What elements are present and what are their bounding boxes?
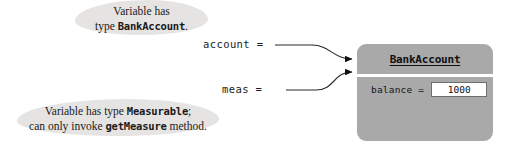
callout-text-suffix: . (185, 20, 188, 32)
arrow-meas-to-object (286, 72, 352, 90)
callout-text-prefix: type (95, 20, 118, 32)
callout-line-1: Variable has type Measurable; (17, 104, 219, 119)
callout-line-2: can only invoke getMeasure method. (17, 119, 219, 134)
variable-label-meas: meas = (222, 83, 262, 95)
callout-type-measurable: Variable has type Measurable; can only i… (17, 99, 219, 136)
callout-text-suffix: method. (167, 120, 207, 132)
callout-code-getmeasure: getMeasure (105, 120, 166, 132)
variable-label-account: account = (203, 38, 264, 50)
callout-line-2: type BankAccount. (75, 19, 208, 34)
diagram-canvas: Variable has type BankAccount. Variable … (0, 0, 519, 155)
arrow-account-to-object (275, 45, 352, 59)
callout-code-measurable: Measurable (127, 105, 188, 117)
callout-text-prefix: Variable has type (45, 105, 127, 117)
callout-text-suffix: ; (188, 105, 191, 117)
callout-code-bankaccount: BankAccount (118, 20, 185, 32)
callout-type-bankaccount: Variable has type BankAccount. (75, 0, 208, 35)
callout-line-1: Variable has (75, 4, 208, 19)
callout-text-prefix: can only invoke (29, 120, 105, 132)
